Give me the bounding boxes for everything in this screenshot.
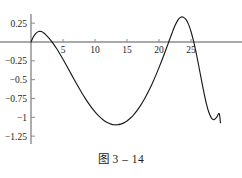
x-tick-label: 5 [61, 45, 66, 55]
x-tick-label: 20 [154, 45, 164, 55]
x-tick-label: 10 [90, 45, 100, 55]
plot-area: 510152025 0.25−0.25−0.5−0.75−1−1.25 [0, 4, 242, 148]
y-tick-label: −1.25 [5, 132, 27, 142]
y-tick-label: 0.25 [10, 19, 27, 29]
y-axis-tick-labels: 0.25−0.25−0.5−0.75−1−1.25 [5, 19, 27, 142]
data-curve [31, 17, 220, 125]
x-axis-tick-labels: 510152025 [61, 45, 196, 55]
figure-caption: 图 3 – 14 [0, 150, 242, 166]
y-tick-label: −0.25 [5, 56, 27, 66]
y-tick-label: −1 [17, 113, 27, 123]
figure-container: 510152025 0.25−0.25−0.5−0.75−1−1.25 图 3 … [0, 0, 242, 178]
y-tick-label: −0.5 [10, 75, 27, 85]
y-tick-label: −0.75 [5, 94, 27, 104]
x-tick-label: 15 [122, 45, 132, 55]
plot-svg: 510152025 0.25−0.25−0.5−0.75−1−1.25 [0, 4, 242, 148]
